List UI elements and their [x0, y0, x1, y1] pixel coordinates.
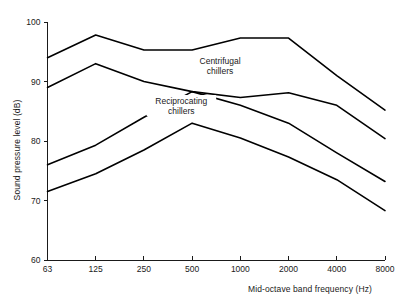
y-axis-title: Sound pressure level (dB): [12, 100, 22, 201]
x-tick-label: 63: [43, 264, 53, 274]
y-tick-label: 90: [31, 77, 41, 87]
x-tick-label: 1000: [231, 264, 250, 274]
x-tick-label: 250: [137, 264, 151, 274]
series-annotation-line1: Centrifugal: [200, 56, 241, 66]
y-tick-label: 70: [31, 196, 41, 206]
y-tick-label: 60: [31, 255, 41, 265]
chart-background: [0, 0, 407, 304]
series-annotation-line2: chillers: [168, 106, 194, 116]
y-tick-label: 100: [26, 17, 40, 27]
x-tick-label: 500: [185, 264, 199, 274]
chart-figure: 10090807060 631252505001000200040008000 …: [0, 0, 407, 304]
x-tick-label: 2000: [279, 264, 298, 274]
y-tick-label: 80: [31, 136, 41, 146]
x-tick-label: 125: [89, 264, 103, 274]
x-tick-label: 4000: [327, 264, 346, 274]
series-annotation-line1: Reciprocating: [155, 96, 207, 106]
series-annotation-line2: chillers: [207, 66, 233, 76]
x-axis-title: Mid-octave band frequency (Hz): [248, 284, 372, 294]
x-tick-label: 8000: [376, 264, 395, 274]
